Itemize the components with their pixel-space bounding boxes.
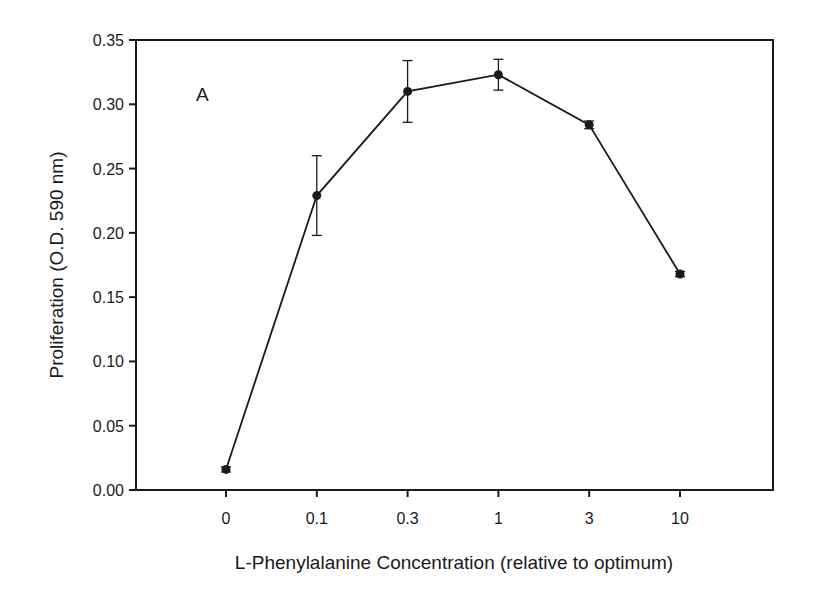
x-tick-label: 10 <box>671 510 689 527</box>
x-axis-title: L-Phenylalanine Concentration (relative … <box>235 552 673 573</box>
x-tick-label: 0.3 <box>396 510 418 527</box>
x-axis-ticks: 00.10.31310 <box>222 490 689 527</box>
y-axis-ticks: 0.000.050.100.150.200.250.300.35 <box>93 32 136 499</box>
y-tick-label: 0.30 <box>93 96 124 113</box>
panel-label: A <box>196 84 209 105</box>
y-tick-label: 0.15 <box>93 289 124 306</box>
error-bars <box>221 59 685 472</box>
y-tick-label: 0.05 <box>93 418 124 435</box>
data-point-marker <box>494 70 503 79</box>
data-series-line <box>226 75 680 470</box>
y-tick-label: 0.20 <box>93 225 124 242</box>
y-tick-label: 0.35 <box>93 32 124 49</box>
data-point-marker <box>403 87 412 96</box>
x-tick-label: 1 <box>494 510 503 527</box>
data-point-marker <box>222 465 231 474</box>
line-chart: 0.000.050.100.150.200.250.300.35 00.10.3… <box>0 0 815 602</box>
x-tick-label: 0 <box>222 510 231 527</box>
y-tick-label: 0.25 <box>93 161 124 178</box>
x-tick-label: 0.1 <box>306 510 328 527</box>
y-tick-label: 0.00 <box>93 482 124 499</box>
x-tick-label: 3 <box>585 510 594 527</box>
data-point-marker <box>676 270 685 279</box>
plot-frame <box>136 40 773 490</box>
y-axis-title: Proliferation (O.D. 590 nm) <box>46 151 67 378</box>
series-polyline <box>226 75 680 470</box>
data-point-marker <box>585 120 594 129</box>
y-tick-label: 0.10 <box>93 353 124 370</box>
data-point-marker <box>312 191 321 200</box>
